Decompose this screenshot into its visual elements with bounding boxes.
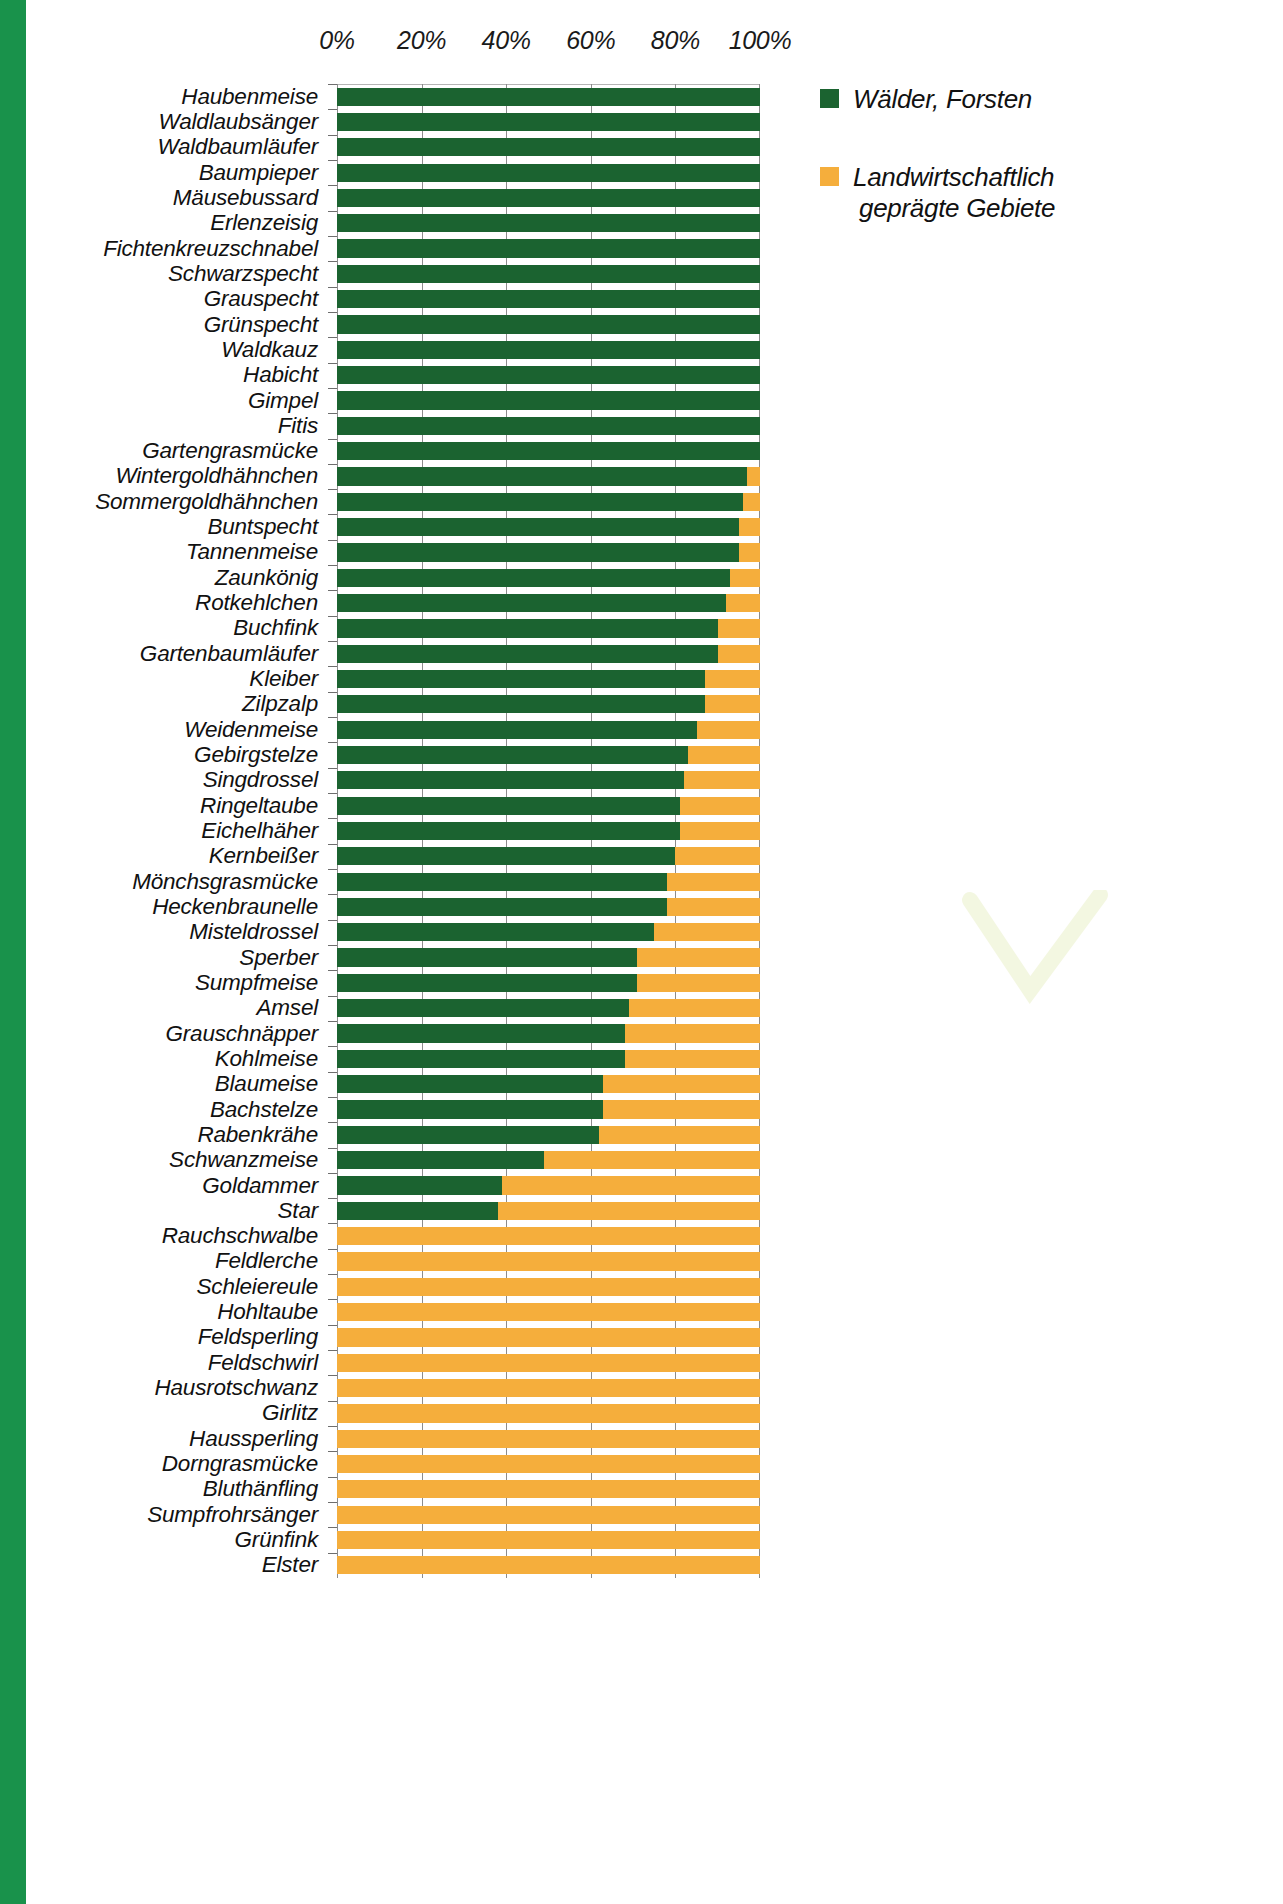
bar-segment-agriculture[interactable]	[705, 670, 760, 688]
table-row[interactable]	[337, 619, 760, 637]
table-row[interactable]	[337, 391, 760, 409]
table-row[interactable]	[337, 214, 760, 232]
table-row[interactable]	[337, 1024, 760, 1042]
table-row[interactable]	[337, 265, 760, 283]
bar-segment-agriculture[interactable]	[739, 543, 760, 561]
bar-segment-forest[interactable]	[337, 290, 760, 308]
table-row[interactable]	[337, 670, 760, 688]
table-row[interactable]	[337, 290, 760, 308]
bar-segment-forest[interactable]	[337, 1202, 498, 1220]
bar-segment-agriculture[interactable]	[337, 1430, 760, 1448]
table-row[interactable]	[337, 822, 760, 840]
table-row[interactable]	[337, 315, 760, 333]
bar-segment-forest[interactable]	[337, 645, 718, 663]
bar-segment-forest[interactable]	[337, 847, 675, 865]
bar-segment-agriculture[interactable]	[544, 1151, 760, 1169]
bar-segment-forest[interactable]	[337, 1075, 603, 1093]
bar-segment-agriculture[interactable]	[637, 948, 760, 966]
bar-segment-agriculture[interactable]	[337, 1556, 760, 1574]
bar-segment-forest[interactable]	[337, 315, 760, 333]
table-row[interactable]	[337, 1202, 760, 1220]
bar-segment-forest[interactable]	[337, 797, 680, 815]
table-row[interactable]	[337, 493, 760, 511]
bar-segment-agriculture[interactable]	[337, 1379, 760, 1397]
bar-segment-agriculture[interactable]	[337, 1404, 760, 1422]
bar-segment-forest[interactable]	[337, 695, 705, 713]
bar-segment-agriculture[interactable]	[337, 1480, 760, 1498]
bar-segment-agriculture[interactable]	[739, 518, 760, 536]
table-row[interactable]	[337, 417, 760, 435]
table-row[interactable]	[337, 695, 760, 713]
table-row[interactable]	[337, 1354, 760, 1372]
bar-segment-agriculture[interactable]	[337, 1227, 760, 1245]
table-row[interactable]	[337, 594, 760, 612]
table-row[interactable]	[337, 974, 760, 992]
bar-segment-agriculture[interactable]	[337, 1531, 760, 1549]
table-row[interactable]	[337, 847, 760, 865]
bar-segment-forest[interactable]	[337, 543, 739, 561]
bar-segment-agriculture[interactable]	[743, 493, 760, 511]
bar-segment-forest[interactable]	[337, 948, 637, 966]
bar-segment-agriculture[interactable]	[637, 974, 760, 992]
bar-segment-agriculture[interactable]	[697, 721, 760, 739]
bar-segment-agriculture[interactable]	[599, 1126, 760, 1144]
table-row[interactable]	[337, 645, 760, 663]
bar-segment-forest[interactable]	[337, 189, 760, 207]
bar-segment-agriculture[interactable]	[718, 645, 760, 663]
bar-segment-forest[interactable]	[337, 771, 684, 789]
bar-segment-forest[interactable]	[337, 265, 760, 283]
table-row[interactable]	[337, 1531, 760, 1549]
table-row[interactable]	[337, 467, 760, 485]
table-row[interactable]	[337, 746, 760, 764]
table-row[interactable]	[337, 1278, 760, 1296]
table-row[interactable]	[337, 771, 760, 789]
table-row[interactable]	[337, 569, 760, 587]
bar-segment-forest[interactable]	[337, 138, 760, 156]
legend-entry-1[interactable]: Landwirtschaftlichgeprägte Gebiete	[820, 162, 1055, 223]
bar-segment-forest[interactable]	[337, 721, 697, 739]
table-row[interactable]	[337, 1430, 760, 1448]
bar-segment-forest[interactable]	[337, 442, 760, 460]
bar-segment-agriculture[interactable]	[502, 1176, 760, 1194]
table-row[interactable]	[337, 442, 760, 460]
bar-segment-forest[interactable]	[337, 999, 629, 1017]
bar-segment-agriculture[interactable]	[667, 898, 760, 916]
table-row[interactable]	[337, 1227, 760, 1245]
bar-segment-forest[interactable]	[337, 1126, 599, 1144]
table-row[interactable]	[337, 1126, 760, 1144]
bar-segment-forest[interactable]	[337, 822, 680, 840]
table-row[interactable]	[337, 1379, 760, 1397]
table-row[interactable]	[337, 1404, 760, 1422]
table-row[interactable]	[337, 1556, 760, 1574]
bar-segment-agriculture[interactable]	[730, 569, 760, 587]
table-row[interactable]	[337, 1151, 760, 1169]
table-row[interactable]	[337, 721, 760, 739]
table-row[interactable]	[337, 923, 760, 941]
bar-segment-agriculture[interactable]	[654, 923, 760, 941]
bar-segment-agriculture[interactable]	[718, 619, 760, 637]
bar-segment-agriculture[interactable]	[337, 1328, 760, 1346]
table-row[interactable]	[337, 239, 760, 257]
bar-segment-agriculture[interactable]	[337, 1252, 760, 1270]
legend-entry-0[interactable]: Wälder, Forsten	[820, 84, 1032, 115]
table-row[interactable]	[337, 1075, 760, 1093]
table-row[interactable]	[337, 1328, 760, 1346]
bar-segment-agriculture[interactable]	[498, 1202, 760, 1220]
table-row[interactable]	[337, 898, 760, 916]
bar-segment-agriculture[interactable]	[667, 873, 760, 891]
bar-segment-forest[interactable]	[337, 493, 743, 511]
bar-segment-forest[interactable]	[337, 239, 760, 257]
table-row[interactable]	[337, 1252, 760, 1270]
table-row[interactable]	[337, 543, 760, 561]
bar-segment-forest[interactable]	[337, 619, 718, 637]
bar-segment-agriculture[interactable]	[688, 746, 760, 764]
bar-segment-forest[interactable]	[337, 1024, 625, 1042]
table-row[interactable]	[337, 1050, 760, 1068]
bar-segment-forest[interactable]	[337, 898, 667, 916]
bar-segment-forest[interactable]	[337, 1050, 625, 1068]
bar-segment-agriculture[interactable]	[747, 467, 760, 485]
bar-segment-forest[interactable]	[337, 1151, 544, 1169]
bar-segment-forest[interactable]	[337, 391, 760, 409]
bar-segment-forest[interactable]	[337, 974, 637, 992]
bar-segment-forest[interactable]	[337, 214, 760, 232]
